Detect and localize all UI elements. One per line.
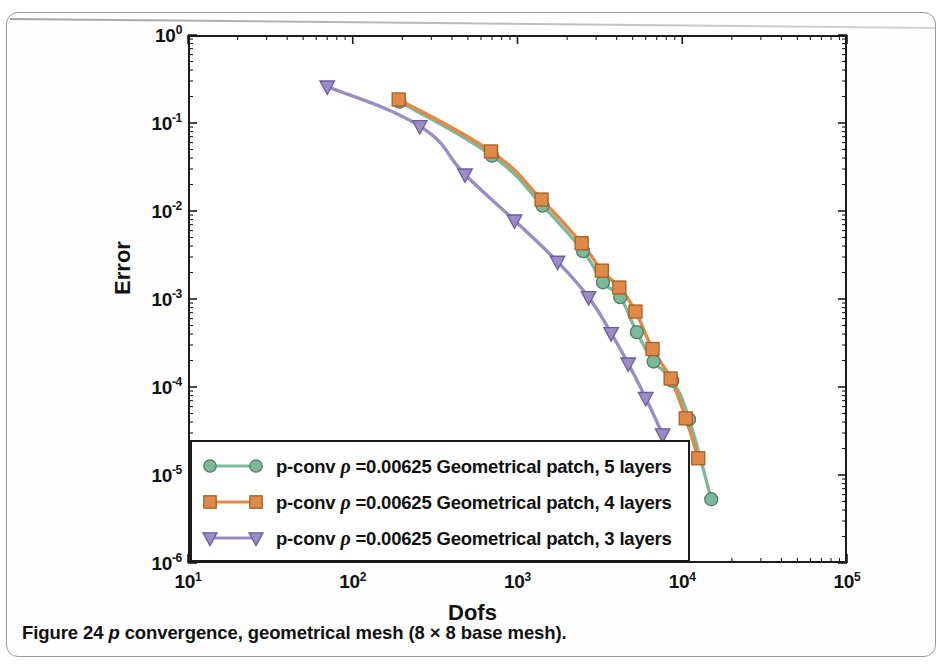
data-marker-square: [646, 343, 659, 356]
x-tick-label: 104: [669, 570, 696, 593]
legend-label-pre: p-conv: [276, 492, 340, 513]
legend-symbol-icon: [200, 489, 266, 515]
data-marker-square: [484, 145, 497, 158]
data-marker-circle: [630, 326, 643, 339]
data-marker-square: [535, 193, 548, 206]
data-marker-square: [692, 452, 705, 465]
legend-rho-symbol: ρ: [340, 527, 350, 549]
data-marker-square: [392, 93, 405, 106]
y-tick-label: 10-4: [151, 375, 182, 398]
legend-label-pre: p-conv: [276, 528, 340, 549]
legend-rho-symbol: ρ: [340, 491, 350, 513]
legend-symbol: [200, 489, 266, 515]
legend-symbol: [200, 525, 266, 551]
data-marker-triangle: [621, 358, 636, 372]
data-marker-square: [575, 237, 588, 250]
data-marker-circle: [705, 493, 718, 506]
data-marker-circle: [647, 355, 660, 368]
legend-symbol-icon: [200, 525, 266, 551]
legend-label-pre: p-conv: [276, 456, 340, 477]
legend-rho-symbol: ρ: [340, 455, 350, 477]
data-marker-triangle: [412, 121, 427, 135]
legend-symbol: [200, 453, 266, 479]
legend-label-post: =0.00625 Geometrical patch, 5 layers: [351, 456, 672, 477]
x-tick-label: 103: [504, 570, 531, 593]
x-tick-label: 105: [834, 570, 861, 593]
data-marker-square: [595, 264, 608, 277]
data-marker-triangle: [638, 392, 653, 406]
legend-symbol-icon: [200, 453, 266, 479]
y-tick-label: 100: [155, 23, 182, 46]
data-marker-square: [613, 281, 626, 294]
data-marker-square: [629, 305, 642, 318]
x-tick-label: 102: [339, 570, 366, 593]
y-tick-label: 10-2: [151, 199, 182, 222]
legend-item: p-conv ρ =0.00625 Geometrical patch, 3 l…: [200, 520, 680, 556]
figure-container: 10010-110-210-310-410-510-6 101102103104…: [0, 0, 945, 670]
y-tick-label: 10-1: [151, 111, 182, 134]
x-axis-tick-labels: 101102103104105: [0, 570, 945, 604]
legend-label: p-conv ρ =0.00625 Geometrical patch, 3 l…: [276, 527, 672, 550]
caption-prefix: Figure 24: [22, 622, 108, 643]
data-marker-square: [679, 412, 692, 425]
y-tick-label: 10-5: [151, 463, 182, 486]
caption-italic-p: p: [108, 622, 119, 643]
legend-label: p-conv ρ =0.00625 Geometrical patch, 5 l…: [276, 455, 672, 478]
legend-label-post: =0.00625 Geometrical patch, 4 layers: [351, 492, 672, 513]
legend-label-post: =0.00625 Geometrical patch, 3 layers: [351, 528, 672, 549]
caption-rest: convergence, geometrical mesh (8 × 8 bas…: [120, 622, 567, 643]
y-tick-label: 10-3: [151, 287, 182, 310]
y-axis-title: Error: [110, 241, 136, 295]
data-marker-square: [664, 372, 677, 385]
x-tick-label: 101: [175, 570, 202, 593]
series-line: [327, 86, 662, 434]
chart-legend: p-conv ρ =0.00625 Geometrical patch, 5 l…: [190, 440, 690, 562]
legend-label: p-conv ρ =0.00625 Geometrical patch, 4 l…: [276, 491, 672, 514]
legend-item: p-conv ρ =0.00625 Geometrical patch, 5 l…: [200, 448, 680, 484]
series-line: [399, 99, 699, 458]
figure-caption: Figure 24 p convergence, geometrical mes…: [22, 622, 922, 644]
legend-item: p-conv ρ =0.00625 Geometrical patch, 4 l…: [200, 484, 680, 520]
